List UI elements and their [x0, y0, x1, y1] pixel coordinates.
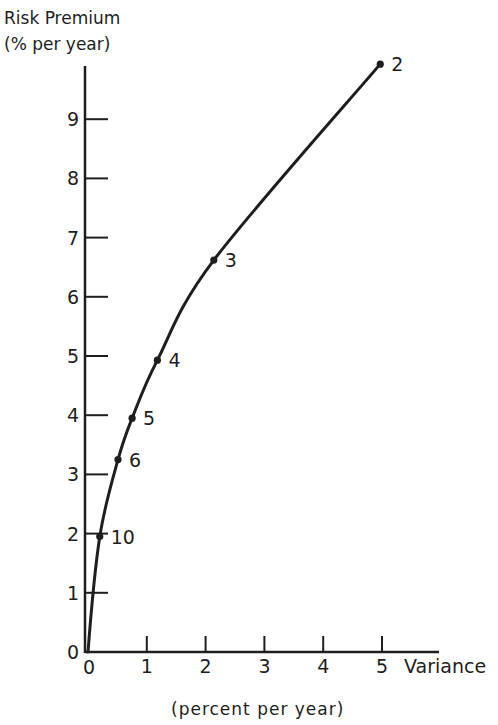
data-point-label-4: 4: [168, 349, 180, 371]
y-tick-label-6: 6: [67, 286, 79, 308]
y-tick-label-8: 8: [67, 167, 79, 189]
x-axis-units: (percent per year): [171, 699, 344, 719]
risk-premium-curve: [88, 64, 380, 652]
data-point-4: [154, 357, 161, 364]
data-point-10: [96, 533, 103, 540]
data-point-label-3: 3: [225, 249, 237, 271]
x-tick-label-2: 2: [200, 655, 212, 677]
y-tick-label-7: 7: [67, 227, 79, 249]
y-tick-label-0: 0: [67, 641, 79, 663]
y-tick-label-3: 3: [67, 463, 79, 485]
x-tick-label-0: 0: [83, 656, 95, 678]
y-tick-label-2: 2: [67, 523, 79, 545]
y-axis-title: Risk Premium: [4, 8, 120, 28]
y-axis-units: (% per year): [4, 34, 110, 54]
x-axis-title: Variance: [404, 655, 486, 677]
data-point-3: [210, 256, 217, 263]
data-point-label-2: 2: [391, 53, 403, 75]
y-tick-label-1: 1: [67, 582, 79, 604]
data-point-label-6: 6: [129, 449, 141, 471]
y-tick-label-9: 9: [67, 108, 79, 130]
x-tick-label-5: 5: [376, 655, 388, 677]
x-tick-label-4: 4: [317, 655, 329, 677]
data-point-label-10: 10: [111, 526, 135, 548]
risk-premium-chart: Risk Premium (% per year) 123456789 1234…: [0, 0, 498, 725]
data-point-5: [129, 415, 136, 422]
data-points: 1065432: [96, 53, 403, 547]
x-tick-label-3: 3: [258, 655, 270, 677]
data-point-6: [114, 456, 121, 463]
x-axis-ticks: 12345: [141, 636, 388, 677]
data-point-2: [377, 61, 384, 68]
data-point-label-5: 5: [143, 407, 155, 429]
y-tick-label-4: 4: [67, 404, 79, 426]
x-tick-label-1: 1: [141, 655, 153, 677]
y-tick-label-5: 5: [67, 345, 79, 367]
